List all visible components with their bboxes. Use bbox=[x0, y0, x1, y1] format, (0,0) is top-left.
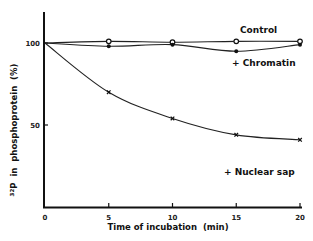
series-label-chromatin: + Chromatin bbox=[232, 58, 296, 68]
data-point-control-15 bbox=[234, 39, 239, 44]
y-tick-label-50: 50 bbox=[30, 122, 40, 130]
x-tick-label-10: 10 bbox=[168, 214, 178, 222]
data-point-chromatin-10 bbox=[171, 43, 175, 47]
x-tick-label-20: 20 bbox=[295, 214, 305, 222]
svg-text:32P in phosphoprotein (%): 32P in phosphoprotein (%) bbox=[9, 63, 19, 196]
x-axis-label: Time of incubation (min) bbox=[107, 222, 228, 232]
data-point-control-5 bbox=[106, 39, 111, 44]
x-tick-label-5: 5 bbox=[106, 214, 111, 222]
data-point-nuclear-sap-5 bbox=[107, 90, 111, 94]
x-tick-label-15: 15 bbox=[231, 214, 241, 222]
data-point-chromatin-5 bbox=[107, 44, 111, 48]
y-axis-label: 32P in phosphoprotein (%) bbox=[9, 63, 19, 196]
data-point-chromatin-20 bbox=[298, 43, 302, 47]
chart: 0510152050100 Time of incubation (min) 3… bbox=[0, 0, 313, 241]
y-axis-label-main: P in phosphoprotein (%) bbox=[9, 63, 19, 188]
series-label-nuclear-sap: + Nuclear sap bbox=[224, 167, 295, 177]
x-tick-label-0: 0 bbox=[43, 214, 48, 222]
y-tick-label-100: 100 bbox=[25, 40, 40, 48]
y-axis-label-superscript: 32 bbox=[9, 189, 15, 197]
data-point-chromatin-15 bbox=[234, 49, 238, 53]
series-label-control: Control bbox=[240, 25, 277, 35]
